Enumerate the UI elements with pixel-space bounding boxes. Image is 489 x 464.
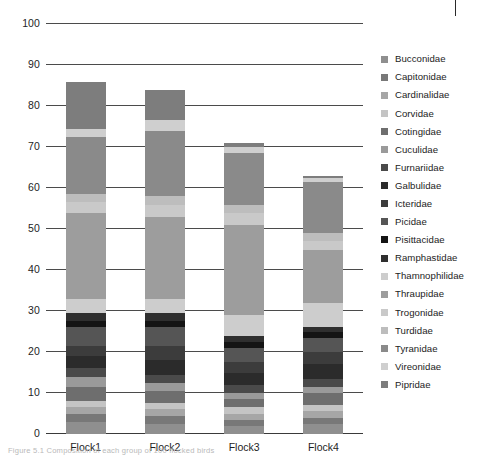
y-tick-label-40: 40 <box>28 264 40 275</box>
legend-swatch-icon <box>381 255 388 262</box>
legend-swatch-icon <box>381 381 388 388</box>
figure-page: 0102030405060708090100Flock1Flock2Flock3… <box>0 0 489 464</box>
bar-segment-galbulidae <box>66 356 106 368</box>
stacked-bar-chart: 0102030405060708090100Flock1Flock2Flock3… <box>0 14 370 424</box>
bar-segment-picidae <box>224 348 264 362</box>
legend-item-icteridae: Icteridae <box>381 195 489 213</box>
bar-segment-turdidae <box>66 194 106 202</box>
bar-segment-cotingidae <box>145 391 185 403</box>
bar-segment-pipridae <box>145 90 185 121</box>
bar-segment-furnariidae <box>145 375 185 383</box>
page-corner-rule <box>455 0 456 16</box>
legend-label: Tyranidae <box>395 344 438 354</box>
bar-flock3: Flock3 <box>224 143 264 434</box>
legend-swatch-icon <box>381 56 388 63</box>
y-tick-label-30: 30 <box>28 305 40 316</box>
bar-segment-turdidae <box>145 196 185 204</box>
legend-label: Cuculidae <box>395 145 438 155</box>
legend-label: Cardinalidae <box>395 90 449 100</box>
bar-segment-capitonidae <box>66 414 106 422</box>
legend-item-trogonidae: Trogonidae <box>381 303 489 321</box>
bar-segment-capitonidae <box>145 416 185 424</box>
legend-label: Ramphastidae <box>395 253 457 263</box>
legend-label: Thamnophilidae <box>395 271 464 281</box>
legend-item-pipridae: Pipridae <box>381 376 489 394</box>
legend-label: Pisittacidae <box>395 235 445 245</box>
bar-segment-bucconidae <box>145 424 185 434</box>
bar-segment-icteridae <box>66 346 106 356</box>
figure-caption: Figure 5.1 Composition of each group of … <box>8 446 428 455</box>
legend-item-cuculidae: Cuculidae <box>381 140 489 158</box>
legend-label: Cotingidae <box>395 127 441 137</box>
bar-segment-cuculidae <box>66 377 106 387</box>
y-tick-label-0: 0 <box>34 428 40 439</box>
bar-segment-thraupidae <box>66 213 106 299</box>
legend-swatch-icon <box>381 273 388 280</box>
legend-label: Picidae <box>395 217 427 227</box>
y-tick-label-100: 100 <box>22 18 40 29</box>
bar-segment-cotingidae <box>224 399 264 407</box>
bar-segment-icteridae <box>303 352 343 364</box>
legend-item-ramphastidae: Ramphastidae <box>381 249 489 267</box>
bar-segment-picidae <box>66 327 106 345</box>
bar-segment-thraupidae <box>303 250 343 303</box>
legend-swatch-icon <box>381 363 388 370</box>
bar-segment-furnariidae <box>66 368 106 376</box>
bar-flock1: Flock1 <box>66 82 106 434</box>
bar-segment-furnariidae <box>224 385 264 393</box>
legend-label: Galbulidae <box>395 181 441 191</box>
bar-segment-furnariidae <box>303 379 343 387</box>
bar-segment-turdidae <box>224 205 264 213</box>
bar-segment-trogonidae <box>66 202 106 212</box>
legend-label: Vireonidae <box>395 362 441 372</box>
bar-segment-thamnophilidae <box>66 299 106 313</box>
legend-swatch-icon <box>381 236 388 243</box>
bar-segment-icteridae <box>145 346 185 360</box>
legend-item-tyranidae: Tyranidae <box>381 340 489 358</box>
bar-flock4: Flock4 <box>303 176 343 434</box>
plot-area: 0102030405060708090100Flock1Flock2Flock3… <box>46 24 363 434</box>
legend-label: Icteridae <box>395 199 432 209</box>
legend-swatch-icon <box>381 128 388 135</box>
bar-segment-picidae <box>145 327 185 345</box>
bar-flock2: Flock2 <box>145 90 185 434</box>
y-tick-label-10: 10 <box>28 387 40 398</box>
legend-label: Bucconidae <box>395 54 446 64</box>
bar-segment-tyranidae <box>303 182 343 233</box>
bar-segment-ramphastidae <box>145 313 185 321</box>
y-tick-label-50: 50 <box>28 223 40 234</box>
bar-segment-galbulidae <box>224 373 264 385</box>
legend-item-turdidae: Turdidae <box>381 321 489 339</box>
bar-segment-tyranidae <box>145 131 185 197</box>
legend-item-picidae: Picidae <box>381 213 489 231</box>
bar-segment-thamnophilidae <box>224 315 264 336</box>
legend-swatch-icon <box>381 309 388 316</box>
legend-item-furnariidae: Furnariidae <box>381 159 489 177</box>
bar-segment-galbulidae <box>303 364 343 378</box>
legend-label: Corvidae <box>395 109 434 119</box>
legend-item-vireonidae: Vireonidae <box>381 358 489 376</box>
legend-item-thraupidae: Thraupidae <box>381 285 489 303</box>
bar-segment-trogonidae <box>224 213 264 225</box>
legend-label: Pipridae <box>395 380 431 390</box>
bar-segment-cotingidae <box>66 387 106 401</box>
legend-swatch-icon <box>381 345 388 352</box>
bar-segment-cotingidae <box>303 393 343 405</box>
bar-segment-galbulidae <box>145 360 185 374</box>
y-tick-label-20: 20 <box>28 346 40 357</box>
legend-item-capitonidae: Capitonidae <box>381 68 489 86</box>
y-tick-label-70: 70 <box>28 141 40 152</box>
legend-label: Capitonidae <box>395 72 447 82</box>
legend-label: Furnariidae <box>395 163 444 173</box>
legend-swatch-icon <box>381 146 388 153</box>
legend-item-corvidae: Corvidae <box>381 104 489 122</box>
chart-legend: BucconidaeCapitonidaeCardinalidaeCorvida… <box>381 50 489 394</box>
y-tick-label-80: 80 <box>28 100 40 111</box>
legend-item-galbulidae: Galbulidae <box>381 177 489 195</box>
bar-segment-pipridae <box>66 82 106 129</box>
gridline-100: 100 <box>46 23 363 24</box>
bar-segment-picidae <box>303 338 343 352</box>
bar-segment-trogonidae <box>145 205 185 217</box>
legend-swatch-icon <box>381 74 388 81</box>
bar-segment-icteridae <box>224 362 264 372</box>
